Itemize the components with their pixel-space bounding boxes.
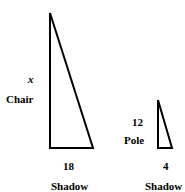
chair-shadow-value: 18 (63, 160, 74, 172)
chair-label: Chair (6, 93, 34, 105)
pole-triangle (158, 100, 172, 148)
pole-shadow-label: Shadow (145, 180, 182, 192)
chair-shadow-label: Shadow (51, 180, 88, 192)
pole-shadow-value: 4 (163, 160, 169, 172)
chair-triangle (50, 13, 93, 148)
chair-height-variable: x (28, 73, 34, 85)
pole-label: Pole (124, 134, 144, 146)
pole-height-value: 12 (132, 116, 143, 128)
